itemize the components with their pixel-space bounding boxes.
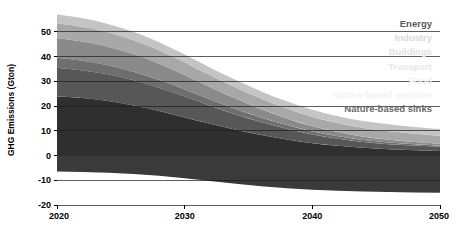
y-tick-label-30: 30 — [41, 76, 51, 86]
legend-group: EnergyIndustryBuildingsTransportFoodNatu… — [332, 18, 433, 114]
legend-item-energy[interactable]: Energy — [400, 18, 433, 29]
legend-item-nature-based-sinks[interactable]: Nature-based sinks — [344, 103, 432, 114]
y-tick-label-10: 10 — [41, 126, 51, 136]
chart-figure: -20-10010203040502020203020402050 GHG Em… — [0, 0, 457, 243]
chart-canvas: -20-10010203040502020203020402050 GHG Em… — [0, 0, 457, 243]
x-tick-label-2040: 2040 — [302, 211, 322, 221]
y-axis-title: GHG Emissions (Gton) — [6, 64, 16, 156]
y-tick-label--10: -10 — [38, 175, 51, 185]
legend-item-nature-based-sources[interactable]: Nature-based sources — [332, 89, 432, 100]
y-tick-label--20: -20 — [38, 200, 51, 210]
y-axis-title-group: GHG Emissions (Gton) — [6, 64, 16, 156]
y-tick-label-0: 0 — [46, 151, 51, 161]
legend-item-transport[interactable]: Transport — [388, 61, 433, 72]
x-tick-label-2020: 2020 — [49, 211, 69, 221]
legend-item-food[interactable]: Food — [409, 75, 432, 86]
y-tick-label-50: 50 — [41, 27, 51, 37]
area-band-nature-based-sinks — [57, 156, 440, 193]
x-tick-label-2030: 2030 — [175, 211, 195, 221]
legend-item-buildings[interactable]: Buildings — [389, 46, 432, 57]
x-tick-label-2050: 2050 — [429, 211, 449, 221]
y-tick-label-40: 40 — [41, 52, 51, 62]
legend-item-industry[interactable]: Industry — [395, 32, 433, 43]
y-tick-label-20: 20 — [41, 101, 51, 111]
